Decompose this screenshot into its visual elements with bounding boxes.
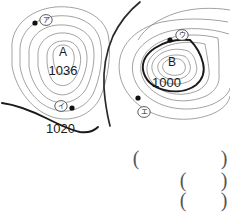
answer-blanks: ( ) ( ) ( ) — [133, 147, 228, 212]
station-marker-a: ア — [32, 15, 52, 26]
system-letter-b: B — [168, 55, 176, 69]
station-dot-u — [167, 37, 172, 42]
station-dot-i — [69, 105, 74, 110]
marker-label-a: ア — [43, 16, 50, 24]
answer-blank-3-open: ( — [180, 189, 187, 212]
answer-blank-1-open: ( — [133, 147, 140, 170]
marker-label-u: ウ — [179, 31, 186, 39]
station-marker-e: エ — [135, 95, 150, 117]
trough-line — [104, 2, 140, 126]
marker-label-i: イ — [58, 102, 65, 110]
marker-label-e: エ — [141, 108, 148, 116]
answer-blank-3-close: ) — [221, 189, 228, 212]
system-pressure-a: 1036 — [49, 63, 78, 78]
station-marker-i: イ — [55, 101, 75, 112]
station-dot-e — [135, 95, 140, 100]
weather-map-figure: A 1036 B 1020 1000 ア イ ウ エ — [0, 0, 230, 222]
isobar-map-svg: A 1036 B 1020 1000 ア イ ウ エ — [0, 0, 230, 222]
system-letter-a: A — [59, 45, 67, 59]
isobar-label-1020: 1020 — [46, 121, 75, 136]
answer-blank-1-close: ) — [221, 147, 228, 170]
station-dot-a — [32, 20, 37, 25]
isobar-label-1000: 1000 — [152, 75, 181, 90]
system-labels: A 1036 B — [49, 45, 176, 78]
